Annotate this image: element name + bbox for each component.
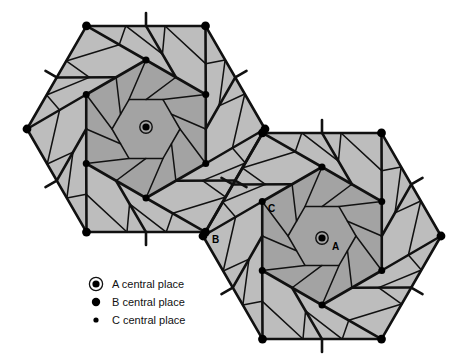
b-central-place-node: [437, 232, 446, 241]
b-central-place-node: [258, 129, 267, 138]
c-central-place-node: [378, 198, 385, 205]
c-central-place-node: [259, 198, 266, 205]
b-central-place-node: [23, 125, 32, 134]
c-central-place-node: [319, 302, 326, 309]
large-dot-icon: [92, 298, 100, 306]
b-central-place-node: [82, 22, 91, 31]
legend-label: C central place: [112, 314, 185, 326]
central-place-diagram: ABC A central placeB central placeC cent…: [0, 0, 464, 359]
b-central-place-node: [258, 335, 267, 344]
a-central-place-dot: [142, 123, 149, 130]
figure-canvas: ABC A central placeB central placeC cent…: [0, 0, 464, 359]
c-central-place-node: [83, 91, 90, 98]
c-central-place-node: [259, 267, 266, 274]
b-central-place-node: [201, 22, 210, 31]
c-central-place-node: [143, 195, 150, 202]
legend-item: A central place: [89, 277, 184, 290]
c-central-place-node: [143, 57, 150, 64]
label-B: B: [212, 234, 219, 245]
legend-label: A central place: [112, 278, 184, 290]
legend-label: B central place: [112, 296, 185, 308]
legend-item: B central place: [92, 296, 185, 308]
c-central-place-node: [378, 267, 385, 274]
legend: A central placeB central placeC central …: [89, 277, 185, 326]
b-central-place-node: [199, 232, 208, 241]
c-central-place-node: [319, 164, 326, 171]
b-central-place-node: [377, 335, 386, 344]
b-central-place-node: [82, 228, 91, 237]
c-central-place-node: [202, 160, 209, 167]
legend-item: C central place: [93, 314, 185, 326]
ringed-dot-core-icon: [92, 280, 99, 287]
a-central-place-dot: [318, 234, 325, 241]
c-central-place-node: [83, 160, 90, 167]
label-C: C: [268, 203, 275, 214]
c-central-place-node: [202, 91, 209, 98]
small-dot-icon: [93, 317, 98, 322]
label-A: A: [332, 241, 339, 252]
b-central-place-node: [377, 129, 386, 138]
